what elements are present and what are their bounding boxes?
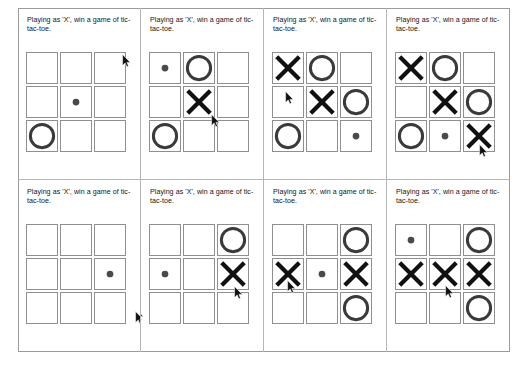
board-cell-r3c1[interactable]: [149, 120, 181, 152]
board-cell-r2c2[interactable]: [429, 86, 461, 118]
board-cell-r3c3[interactable]: [340, 120, 372, 152]
board-cell-r1c1[interactable]: [272, 52, 304, 84]
board-cell-r2c1[interactable]: [149, 86, 181, 118]
x-mark-icon: [273, 259, 303, 289]
board-cell-r2c1[interactable]: [149, 258, 181, 290]
panel-caption: Playing as 'X', win a game of tic-tac-to…: [273, 188, 379, 206]
board-cell-r1c2[interactable]: [60, 224, 92, 256]
board-cell-r1c3[interactable]: [94, 52, 126, 84]
dot-marker-icon: [341, 121, 371, 151]
board-cell-r1c2[interactable]: [60, 52, 92, 84]
trajectory-panel-5: Playing as 'X', win a game of tic-tac-to…: [18, 180, 141, 352]
board-cell-r1c3[interactable]: [94, 224, 126, 256]
board-cell-r3c3[interactable]: [94, 292, 126, 324]
o-mark-icon: [273, 121, 303, 151]
board-cell-r2c2[interactable]: [60, 86, 92, 118]
board-cell-r3c1[interactable]: [395, 292, 427, 324]
dot-marker-icon: [95, 259, 125, 289]
board-cell-r3c1[interactable]: [272, 292, 304, 324]
board-cell-r2c2[interactable]: [429, 258, 461, 290]
board-cell-r1c1[interactable]: [26, 224, 58, 256]
board-cell-r2c3[interactable]: [217, 86, 249, 118]
board-cell-r3c2[interactable]: [429, 120, 461, 152]
board-cell-r2c2[interactable]: [183, 258, 215, 290]
panel-caption: Playing as 'X', win a game of tic-tac-to…: [27, 188, 133, 206]
board-cell-r2c1[interactable]: [26, 86, 58, 118]
board-cell-r3c3[interactable]: [340, 292, 372, 324]
board-cell-r3c2[interactable]: [60, 120, 92, 152]
board-cell-r1c2[interactable]: [306, 52, 338, 84]
board-cell-r2c3[interactable]: [94, 258, 126, 290]
board-cell-r1c2[interactable]: [429, 52, 461, 84]
board-cell-r2c3[interactable]: [463, 258, 495, 290]
trajectory-panel-4: Playing as 'X', win a game of tic-tac-to…: [387, 8, 510, 180]
dot-marker-icon: [307, 259, 337, 289]
board-cell-r3c1[interactable]: [149, 292, 181, 324]
board-cell-r2c1[interactable]: [26, 258, 58, 290]
board-cell-r3c3[interactable]: [463, 120, 495, 152]
x-mark-icon: [464, 259, 494, 289]
board-cell-r3c3[interactable]: [217, 292, 249, 324]
board-cell-r3c3[interactable]: [217, 120, 249, 152]
dot-marker-icon: [61, 87, 91, 117]
board-cell-r1c1[interactable]: [149, 52, 181, 84]
x-mark-icon: [218, 259, 248, 289]
board-cell-r2c3[interactable]: [340, 86, 372, 118]
o-mark-icon: [464, 293, 494, 323]
panel-grid: Playing as 'X', win a game of tic-tac-to…: [18, 8, 510, 352]
board-cell-r3c3[interactable]: [94, 120, 126, 152]
board-cell-r1c1[interactable]: [26, 52, 58, 84]
board-cell-r3c1[interactable]: [26, 292, 58, 324]
dot-marker-icon: [396, 225, 426, 255]
board-cell-r1c2[interactable]: [183, 52, 215, 84]
board-cell-r3c2[interactable]: [429, 292, 461, 324]
x-mark-icon: [430, 259, 460, 289]
board-cell-r1c1[interactable]: [272, 224, 304, 256]
board-cell-r2c3[interactable]: [463, 86, 495, 118]
board-cell-r2c3[interactable]: [94, 86, 126, 118]
board-cell-r1c3[interactable]: [340, 52, 372, 84]
board-cell-r3c2[interactable]: [60, 292, 92, 324]
board-cell-r2c3[interactable]: [217, 258, 249, 290]
board-cell-r1c1[interactable]: [395, 52, 427, 84]
board-cell-r1c3[interactable]: [340, 224, 372, 256]
board-cell-r3c1[interactable]: [272, 120, 304, 152]
board-cell-r1c3[interactable]: [463, 52, 495, 84]
board-cell-r1c1[interactable]: [395, 224, 427, 256]
x-mark-icon: [464, 121, 494, 151]
tic-tac-toe-board: [149, 224, 253, 328]
board-cell-r2c2[interactable]: [306, 258, 338, 290]
tic-tac-toe-board: [395, 52, 499, 156]
trajectory-panel-6: Playing as 'X', win a game of tic-tac-to…: [141, 180, 264, 352]
o-mark-icon: [307, 53, 337, 83]
board-cell-r3c1[interactable]: [395, 120, 427, 152]
board-cell-r1c2[interactable]: [429, 224, 461, 256]
board-cell-r2c2[interactable]: [60, 258, 92, 290]
board-cell-r1c3[interactable]: [463, 224, 495, 256]
board-cell-r1c3[interactable]: [217, 52, 249, 84]
tic-tac-toe-board: [26, 224, 130, 328]
board-cell-r2c1[interactable]: [272, 258, 304, 290]
x-mark-icon: [341, 259, 371, 289]
board-cell-r2c2[interactable]: [183, 86, 215, 118]
tic-tac-toe-board: [395, 224, 499, 328]
board-cell-r1c2[interactable]: [183, 224, 215, 256]
mouse-cursor-secondary: [141, 308, 144, 322]
board-cell-r2c1[interactable]: [272, 86, 304, 118]
board-cell-r1c2[interactable]: [306, 224, 338, 256]
dot-marker-icon: [150, 53, 180, 83]
board-cell-r1c1[interactable]: [149, 224, 181, 256]
board-cell-r3c3[interactable]: [463, 292, 495, 324]
board-cell-r2c2[interactable]: [306, 86, 338, 118]
x-mark-icon: [430, 87, 460, 117]
board-cell-r2c1[interactable]: [395, 86, 427, 118]
board-cell-r2c1[interactable]: [395, 258, 427, 290]
board-cell-r2c3[interactable]: [340, 258, 372, 290]
board-cell-r1c3[interactable]: [217, 224, 249, 256]
board-cell-r3c2[interactable]: [183, 292, 215, 324]
board-cell-r3c2[interactable]: [306, 120, 338, 152]
board-cell-r3c2[interactable]: [306, 292, 338, 324]
tic-tac-toe-board: [26, 52, 130, 156]
board-cell-r3c2[interactable]: [183, 120, 215, 152]
board-cell-r3c1[interactable]: [26, 120, 58, 152]
